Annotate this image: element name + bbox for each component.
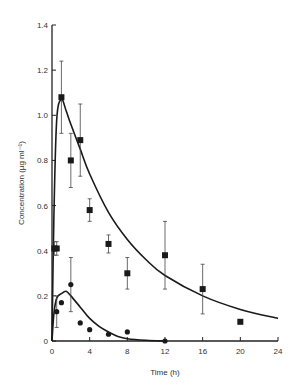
y-tick-label: 0.4	[37, 247, 49, 256]
square-marker	[87, 207, 93, 213]
x-axis-label: Time (h)	[150, 368, 180, 377]
y-tick-label: 0.6	[37, 202, 49, 211]
circle-marker	[54, 309, 59, 314]
x-tick-label: 16	[198, 347, 207, 356]
axes: 0481216202400.20.40.60.81.01.21.4	[37, 21, 283, 356]
y-tick-label: 1.4	[37, 21, 49, 30]
circle-marker	[125, 329, 130, 334]
y-axis-label: Concentration (µg ml⁻¹)	[17, 141, 26, 225]
x-tick-label: 20	[236, 347, 245, 356]
concentration-time-chart: 0481216202400.20.40.60.81.01.21.4 Time (…	[0, 0, 298, 392]
square-marker	[124, 270, 130, 276]
squares-fit-curve	[52, 99, 278, 341]
square-marker	[68, 157, 74, 163]
error-bars	[52, 61, 204, 327]
circle-marker	[59, 300, 64, 305]
square-marker	[54, 245, 60, 251]
circle-marker	[68, 282, 73, 287]
y-tick-label: 1.2	[37, 66, 49, 75]
fit-curves	[52, 99, 278, 341]
y-tick-label: 0.2	[37, 292, 49, 301]
y-tick-label: 1.0	[37, 111, 49, 120]
circle-marker	[78, 320, 83, 325]
square-marker	[58, 94, 64, 100]
x-tick-label: 8	[125, 347, 130, 356]
square-marker	[77, 137, 83, 143]
x-tick-label: 24	[274, 347, 283, 356]
square-marker	[237, 319, 243, 325]
circle-marker	[162, 338, 167, 343]
square-marker	[200, 286, 206, 292]
y-tick-label: 0.8	[37, 156, 49, 165]
x-tick-label: 4	[87, 347, 92, 356]
square-marker	[106, 241, 112, 247]
square-marker	[162, 252, 168, 258]
circle-marker	[106, 332, 111, 337]
x-tick-label: 12	[161, 347, 170, 356]
circle-marker	[87, 327, 92, 332]
x-tick-label: 0	[50, 347, 55, 356]
y-tick-label: 0	[44, 337, 49, 346]
